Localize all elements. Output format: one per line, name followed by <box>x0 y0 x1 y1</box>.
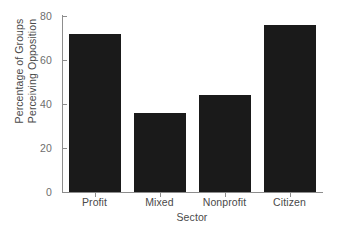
x-axis-line <box>62 192 323 193</box>
y-tick-label: 0 <box>0 187 52 197</box>
bar-citizen <box>264 25 316 192</box>
x-tick-label-mixed: Mixed <box>127 196 192 208</box>
y-axis-title: Percentage of Groups Perceiving Oppositi… <box>13 0 39 159</box>
x-tick-label-profit: Profit <box>62 196 127 208</box>
y-axis-title-line-2: Perceiving Opposition <box>26 0 39 159</box>
bar-chart-figure: 020406080 ProfitMixedNonprofitCitizen Pe… <box>0 0 341 232</box>
bar-nonprofit <box>199 95 251 192</box>
bar-mixed <box>134 113 186 192</box>
y-axis-title-line-1: Percentage of Groups <box>13 19 25 124</box>
x-axis-title: Sector <box>62 211 322 223</box>
x-tick-label-nonprofit: Nonprofit <box>192 196 257 208</box>
y-tick-mark <box>63 192 67 193</box>
bar-profit <box>69 34 121 192</box>
x-tick-label-citizen: Citizen <box>257 196 322 208</box>
plot-area <box>62 16 322 192</box>
